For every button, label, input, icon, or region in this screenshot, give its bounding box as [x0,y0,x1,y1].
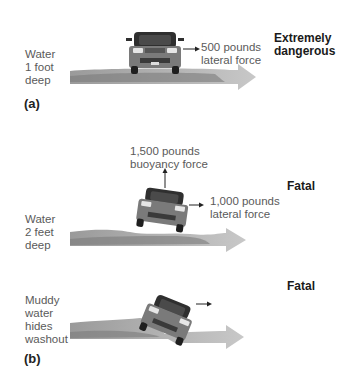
force-line: lateral force [201,54,261,67]
lateral-force-arrow-b2 [196,302,212,307]
water-depth-line: deep [25,74,55,87]
force-line: 1,000 pounds [210,195,280,208]
verdict-line: dangerous [274,45,335,58]
lateral-force-label-a: 500 pounds lateral force [201,41,261,67]
water-depth-line: deep [25,239,55,252]
verdict-b2: Fatal [287,280,315,293]
lateral-force-arrow-b1 [189,203,204,208]
verdict-b1: Fatal [287,180,315,193]
description-line: hides [25,320,68,333]
description-line: washout [25,333,68,346]
water-depth-label-a: Water 1 foot deep [25,48,55,87]
buoyancy-force-arrow [163,168,168,188]
panel-label-a: (a) [24,96,40,111]
lateral-force-label-b1: 1,000 pounds lateral force [210,195,280,221]
car-b1 [135,186,190,233]
car-a [126,32,184,74]
description-line: water [25,307,68,320]
force-line: 500 pounds [201,41,261,54]
force-line: lateral force [210,208,280,221]
force-line: buoyancy force [130,158,208,171]
water-depth-line: 2 feet [25,226,55,239]
force-line: 1,500 pounds [130,145,208,158]
water-depth-line: 1 foot [25,61,55,74]
water-depth-line: Water [25,48,55,61]
lateral-force-arrow-a [183,47,200,52]
water-depth-line: Water [25,213,55,226]
water-arrow-b1 [70,228,246,252]
description-line: Muddy [25,294,68,307]
verdict-a: Extremely dangerous [274,32,335,58]
buoyancy-force-label: 1,500 pounds buoyancy force [130,145,208,171]
panel-label-b: (b) [24,351,41,366]
washout-description: Muddy water hides washout [25,294,68,346]
water-depth-label-b1: Water 2 feet deep [25,213,55,252]
